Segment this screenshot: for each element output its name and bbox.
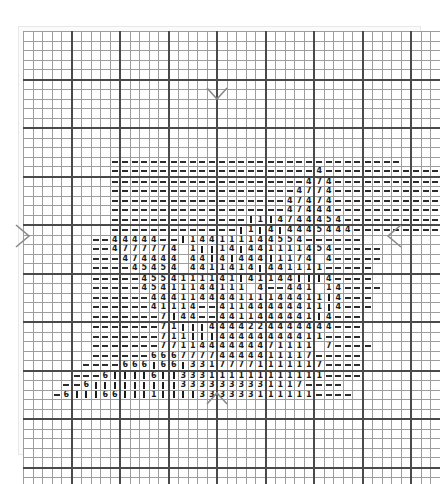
stitch-cell-1[interactable]: 1 [266,381,276,391]
stitch-cell-empty[interactable] [52,148,62,158]
stitch-cell-empty[interactable] [246,128,256,138]
stitch-cell-dash[interactable] [110,254,120,264]
stitch-cell-empty[interactable] [101,206,111,216]
stitch-cell-empty[interactable] [149,99,159,109]
stitch-cell-empty[interactable] [188,439,198,449]
stitch-cell-empty[interactable] [159,439,169,449]
stitch-cell-empty[interactable] [72,196,82,206]
stitch-cell-empty[interactable] [276,458,286,468]
stitch-cell-empty[interactable] [101,148,111,158]
stitch-cell-7[interactable]: 7 [295,196,305,206]
stitch-cell-empty[interactable] [256,448,266,458]
stitch-cell-dash[interactable] [343,187,353,197]
stitch-cell-empty[interactable] [324,109,334,119]
stitch-cell-empty[interactable] [101,128,111,138]
stitch-cell-empty[interactable] [24,332,34,342]
stitch-cell-empty[interactable] [33,196,43,206]
stitch-cell-empty[interactable] [62,225,72,235]
stitch-cell-dash[interactable] [217,206,227,216]
stitch-cell-dash[interactable] [159,187,169,197]
stitch-cell-empty[interactable] [411,80,421,90]
stitch-cell-1[interactable]: 1 [266,361,276,371]
stitch-cell-empty[interactable] [91,70,101,80]
stitch-cell-3[interactable]: 3 [237,381,247,391]
stitch-cell-empty[interactable] [198,51,208,61]
stitch-cell-empty[interactable] [217,51,227,61]
stitch-cell-empty[interactable] [188,60,198,70]
stitch-cell-empty[interactable] [207,80,217,90]
stitch-cell-empty[interactable] [101,32,111,42]
stitch-cell-empty[interactable] [52,419,62,429]
stitch-cell-empty[interactable] [276,60,286,70]
stitch-cell-empty[interactable] [266,468,276,478]
stitch-cell-bar[interactable] [140,390,150,400]
stitch-cell-dash[interactable] [110,312,120,322]
stitch-cell-1[interactable]: 1 [314,264,324,274]
stitch-cell-dash[interactable] [101,293,111,303]
stitch-cell-4[interactable]: 4 [179,312,189,322]
stitch-cell-empty[interactable] [72,264,82,274]
stitch-cell-dash[interactable] [140,167,150,177]
stitch-cell-dash[interactable] [188,196,198,206]
stitch-cell-empty[interactable] [217,409,227,419]
stitch-cell-empty[interactable] [101,167,111,177]
stitch-cell-empty[interactable] [43,478,53,484]
stitch-cell-empty[interactable] [401,293,411,303]
stitch-cell-empty[interactable] [33,41,43,51]
stitch-cell-empty[interactable] [382,351,392,361]
stitch-cell-empty[interactable] [91,109,101,119]
stitch-cell-empty[interactable] [72,322,82,332]
stitch-cell-empty[interactable] [373,303,383,313]
stitch-cell-empty[interactable] [295,468,305,478]
stitch-cell-7[interactable]: 7 [266,342,276,352]
stitch-cell-empty[interactable] [401,254,411,264]
stitch-cell-7[interactable]: 7 [217,361,227,371]
stitch-cell-empty[interactable] [101,196,111,206]
stitch-cell-empty[interactable] [304,32,314,42]
stitch-cell-empty[interactable] [62,342,72,352]
stitch-cell-dash[interactable] [411,196,421,206]
stitch-cell-dash[interactable] [227,187,237,197]
stitch-cell-empty[interactable] [421,342,431,352]
stitch-cell-1[interactable]: 1 [295,351,305,361]
stitch-cell-empty[interactable] [276,419,286,429]
stitch-cell-empty[interactable] [266,90,276,100]
stitch-cell-empty[interactable] [43,293,53,303]
stitch-cell-7[interactable]: 7 [314,361,324,371]
stitch-cell-empty[interactable] [276,138,286,148]
stitch-cell-dash[interactable] [101,284,111,294]
stitch-cell-dash[interactable] [266,206,276,216]
stitch-cell-empty[interactable] [33,187,43,197]
stitch-cell-7[interactable]: 7 [188,351,198,361]
stitch-cell-empty[interactable] [62,400,72,410]
stitch-cell-empty[interactable] [198,138,208,148]
stitch-cell-empty[interactable] [62,157,72,167]
stitch-cell-empty[interactable] [285,458,295,468]
stitch-cell-empty[interactable] [246,458,256,468]
stitch-cell-empty[interactable] [334,439,344,449]
stitch-cell-empty[interactable] [140,439,150,449]
stitch-cell-dash[interactable] [373,196,383,206]
stitch-cell-empty[interactable] [62,99,72,109]
stitch-cell-empty[interactable] [334,80,344,90]
stitch-cell-bar[interactable] [120,381,130,391]
stitch-cell-empty[interactable] [421,293,431,303]
stitch-cell-empty[interactable] [382,32,392,42]
stitch-cell-empty[interactable] [169,128,179,138]
stitch-cell-empty[interactable] [401,118,411,128]
stitch-cell-empty[interactable] [373,439,383,449]
stitch-cell-empty[interactable] [343,400,353,410]
stitch-cell-dash[interactable] [392,206,402,216]
stitch-cell-6[interactable]: 6 [169,361,179,371]
stitch-cell-empty[interactable] [101,99,111,109]
stitch-cell-dash[interactable] [110,361,120,371]
stitch-cell-empty[interactable] [198,458,208,468]
stitch-cell-dash[interactable] [179,157,189,167]
stitch-cell-empty[interactable] [62,264,72,274]
stitch-cell-empty[interactable] [353,148,363,158]
stitch-cell-dash[interactable] [130,157,140,167]
stitch-cell-empty[interactable] [52,264,62,274]
stitch-cell-empty[interactable] [392,400,402,410]
stitch-cell-4[interactable]: 4 [159,254,169,264]
stitch-cell-dash[interactable] [198,225,208,235]
